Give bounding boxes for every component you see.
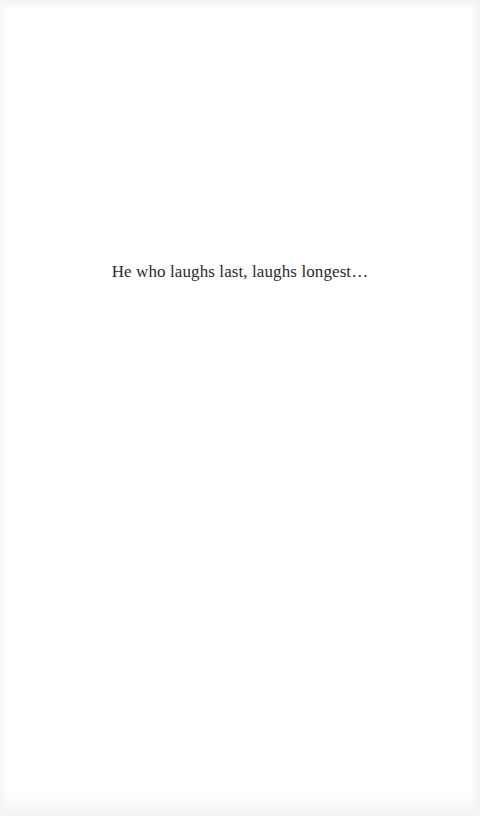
page-bottom-edge-shadow <box>0 792 480 816</box>
page-left-edge-shadow <box>0 0 8 816</box>
book-page: He who laughs last, laughs longest… <box>0 0 480 816</box>
page-top-edge-shadow <box>0 0 480 10</box>
epigraph-text: He who laughs last, laughs longest… <box>0 261 480 283</box>
page-right-edge-shadow <box>470 0 480 816</box>
